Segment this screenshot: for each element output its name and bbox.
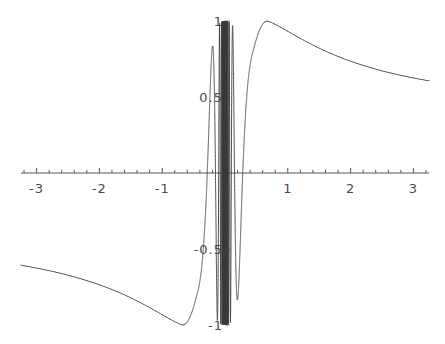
- x-tick-label: -1: [155, 181, 170, 196]
- x-tick-label: 2: [346, 181, 355, 196]
- x-tick-label: -3: [29, 181, 44, 196]
- x-tick-label: 1: [283, 181, 292, 196]
- plot-canvas: -3-2-1123 -1-0.50.51: [0, 0, 445, 344]
- y-tick-label: 0.5: [199, 90, 223, 105]
- y-tick-label: -1: [208, 318, 223, 333]
- x-tick-label: -2: [92, 181, 107, 196]
- plot-svg: [0, 0, 445, 344]
- x-tick-label: 3: [409, 181, 418, 196]
- y-tick-label: -0.5: [194, 242, 223, 257]
- y-tick-label: 1: [214, 14, 223, 29]
